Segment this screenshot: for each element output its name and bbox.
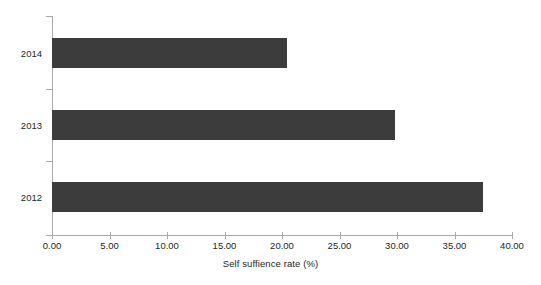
x-axis-tick-label: 20.00 bbox=[270, 240, 294, 251]
bar-2012[interactable] bbox=[52, 182, 483, 212]
x-axis-tick-label: 30.00 bbox=[385, 240, 409, 251]
y-axis-tick-label: 2014 bbox=[21, 48, 42, 59]
bar-2013[interactable] bbox=[52, 110, 395, 140]
y-axis-tick-label: 2012 bbox=[21, 192, 42, 203]
x-axis-tick-label: 40.00 bbox=[500, 240, 524, 251]
x-axis-tick-label: 25.00 bbox=[328, 240, 352, 251]
bar-chart: 2014 2013 2012 0.005.0010.0015.0020.0025… bbox=[0, 0, 541, 285]
x-axis-tick bbox=[282, 232, 283, 239]
x-axis-tick bbox=[455, 232, 456, 239]
x-axis-tick bbox=[52, 232, 53, 239]
x-axis-tick-label: 0.00 bbox=[43, 240, 62, 251]
x-axis-tick-label: 35.00 bbox=[443, 240, 467, 251]
x-axis-tick-label: 10.00 bbox=[155, 240, 179, 251]
x-axis-tick bbox=[340, 232, 341, 239]
x-axis-tick-label: 5.00 bbox=[100, 240, 119, 251]
x-axis-title: Self suffience rate (%) bbox=[0, 258, 541, 269]
y-axis-labels: 2014 2013 2012 bbox=[0, 17, 46, 235]
plot-area bbox=[52, 17, 512, 235]
x-axis-tick bbox=[225, 232, 226, 239]
bar-2014[interactable] bbox=[52, 38, 287, 68]
x-axis-tick-label: 15.00 bbox=[213, 240, 237, 251]
x-axis-tick bbox=[512, 232, 513, 239]
y-axis-tick-label: 2013 bbox=[21, 120, 42, 131]
x-axis-tick bbox=[397, 232, 398, 239]
x-axis-tick bbox=[110, 232, 111, 239]
x-axis-tick bbox=[167, 232, 168, 239]
